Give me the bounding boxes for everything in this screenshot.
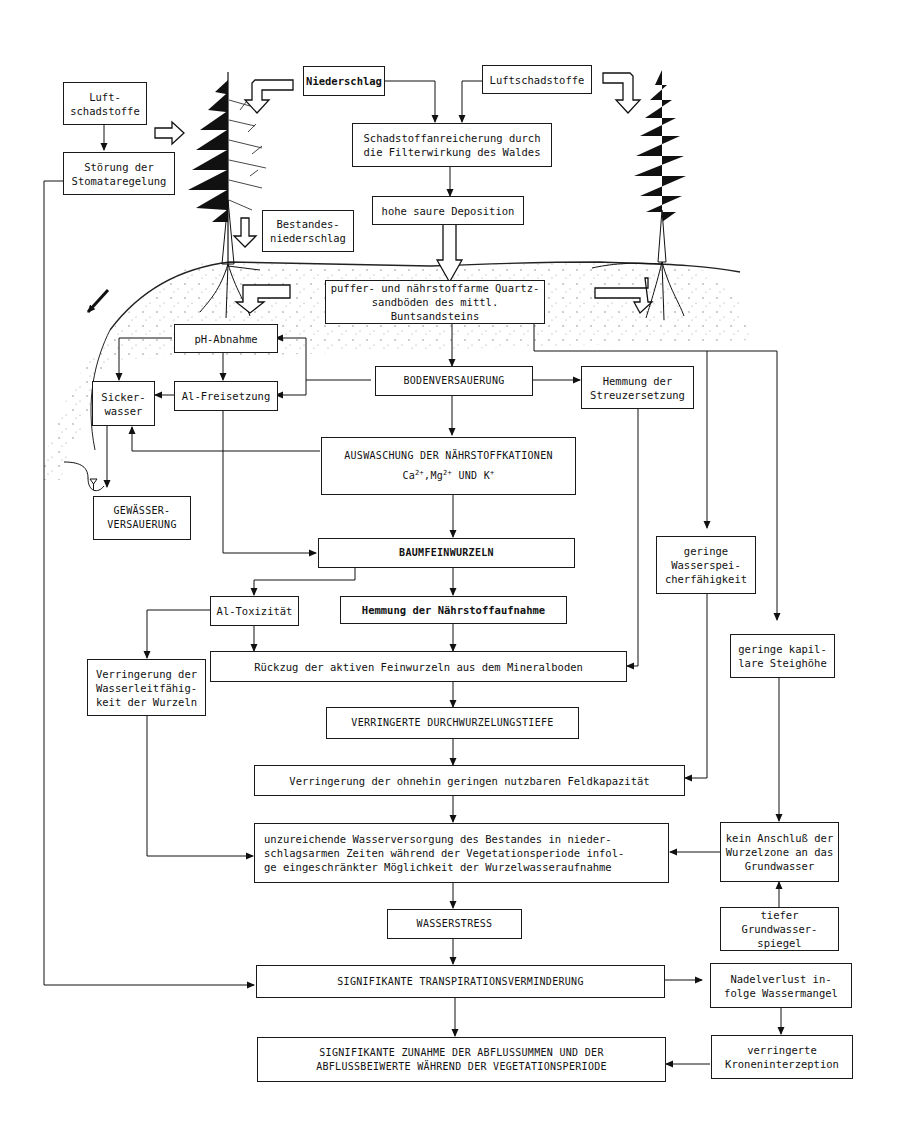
node-bestandesniederschlag: Bestandes- niederschlag bbox=[262, 210, 354, 252]
node-quartzsandboeden: puffer- und nährstoffarme Quartz- sandbö… bbox=[325, 280, 545, 324]
node-schadstoffanreicherung: Schadstoffanreicherung durch die Filterw… bbox=[352, 123, 552, 167]
node-verringerung-feldkapazitaet: Verringerung der ohnehin geringen nutzba… bbox=[254, 765, 685, 796]
node-nadelverlust: Nadelverlust in- folge Wassermangel bbox=[710, 963, 852, 1008]
flowchart-canvas: Luft- schadstoffe Störung der Stomatareg… bbox=[0, 0, 900, 1144]
auswaschung-ions: Ca2+,Mg2+ UND K+ bbox=[402, 469, 494, 483]
node-luftschadstoffe-top: Luftschadstoffe bbox=[482, 65, 592, 94]
node-verringerung-wasserleitfaehigkeit: Verringerung der Wasserleitfähig- keit d… bbox=[87, 659, 206, 716]
node-baumfeinwurzeln: BAUMFEINWURZELN bbox=[318, 538, 575, 568]
node-hemmung-streuzersetzung: Hemmung der Streuzersetzung bbox=[581, 366, 694, 409]
node-hemmung-naehrstoffaufnahme: Hemmung der Nährstoffaufnahme bbox=[340, 596, 567, 624]
node-transpirationsverminderung: SIGNIFIKANTE TRANSPIRATIONSVERMINDERUNG bbox=[256, 965, 665, 998]
auswaschung-title: AUSWASCHUNG DER NÄHRSTOFFKATIONEN bbox=[344, 449, 553, 463]
node-ph-abnahme: pH-Abnahme bbox=[174, 324, 278, 353]
stream-water-icon bbox=[64, 462, 104, 491]
node-verringerte-kroneninterzeption: verringerte Kroneninterzeption bbox=[711, 1035, 853, 1079]
node-luftschadstoffe-left: Luft- schadstoffe bbox=[63, 82, 147, 125]
node-unzureichende-wasserversorgung: unzureichende Wasserversorgung des Besta… bbox=[254, 823, 669, 883]
node-niederschlag: Niederschlag bbox=[303, 66, 385, 96]
node-auswaschung-naehrstoffkationen: AUSWASCHUNG DER NÄHRSTOFFKATIONEN Ca2+,M… bbox=[321, 437, 576, 495]
node-al-toxizitaet: Al-Toxizität bbox=[210, 596, 299, 626]
node-gewaesserversauerung: GEWÄSSER- VERSAUERUNG bbox=[93, 496, 191, 540]
node-wasserstress: WASSERSTRESS bbox=[387, 909, 522, 939]
node-verringerte-durchwurzelungstiefe: VERRINGERTE DURCHWURZELUNGSTIEFE bbox=[326, 707, 579, 739]
node-rueckzug-feinwurzeln: Rückzug der aktiven Feinwurzeln aus dem … bbox=[210, 651, 627, 682]
node-kein-anschluss-grundwasser: kein Anschluß der Wurzelzone an das Grun… bbox=[720, 822, 839, 882]
node-sickerwasser: Sicker- wasser bbox=[92, 381, 155, 426]
node-stoerung-stomataregelung: Störung der Stomataregelung bbox=[63, 152, 175, 195]
node-zunahme-abflusssummen: SIGNIFIKANTE ZUNAHME DER ABFLUSSUMMEN UN… bbox=[257, 1037, 666, 1082]
node-al-freisetzung: Al-Freisetzung bbox=[174, 381, 278, 411]
node-hohe-saure-deposition: hohe saure Deposition bbox=[372, 196, 524, 225]
node-geringe-kapillare-steighoehe: geringe kapil- lare Steighöhe bbox=[730, 634, 835, 678]
node-bodenversauerung: BODENVERSAUERUNG bbox=[375, 366, 533, 396]
node-geringe-wasserspeicherfaehigkeit: geringe Wasserspei- cherfähigkeit bbox=[656, 536, 756, 594]
node-tiefer-grundwasserspiegel: tiefer Grundwasser- spiegel bbox=[720, 907, 839, 951]
